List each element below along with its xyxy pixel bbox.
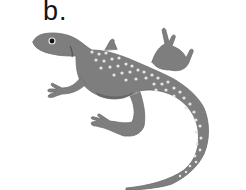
front-leg-back	[105, 39, 117, 50]
front-leg	[48, 78, 86, 98]
figure-panel: b.	[0, 0, 246, 190]
lizard-illustration	[0, 0, 246, 190]
hind-leg-back	[152, 28, 193, 71]
